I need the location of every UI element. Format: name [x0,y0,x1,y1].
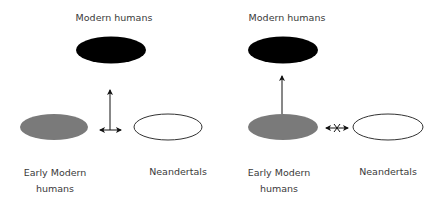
early-modern-humans-label-left-line2: humans [36,183,74,194]
diagram-canvas: Modern humans Early Modern humans Neande… [0,0,448,201]
early-modern-humans-ellipse-right [248,114,318,140]
human-evolution-diagram: Modern humans Early Modern humans Neande… [0,0,448,201]
modern-humans-ellipse-right [248,37,318,64]
neandertals-label-right: Neandertals [359,166,417,177]
modern-humans-label-left: Modern humans [76,12,153,23]
neandertals-ellipse-left [134,114,202,140]
early-modern-humans-label-right-line2: humans [260,183,298,194]
neandertals-ellipse-right [353,114,423,140]
early-modern-humans-label-left-line1: Early Modern [24,167,87,178]
panel-left: Modern humans Early Modern humans Neande… [20,12,207,194]
panel-right: Modern humans Early Modern humans Neande… [248,12,423,194]
modern-humans-label-right: Modern humans [249,12,326,23]
modern-humans-ellipse-left [76,37,146,64]
early-modern-humans-ellipse-left [20,114,88,140]
early-modern-humans-label-right-line1: Early Modern [248,167,311,178]
neandertals-label-left: Neandertals [149,166,207,177]
